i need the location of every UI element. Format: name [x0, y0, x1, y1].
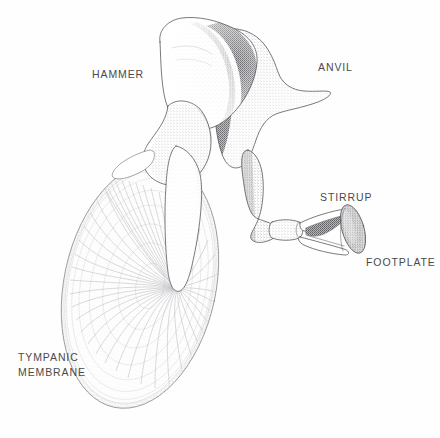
label-tympanic-membrane: TYMPANIC MEMBRANE: [18, 350, 86, 380]
label-anvil: ANVIL: [318, 60, 353, 74]
stapes-group: [266, 200, 372, 260]
label-hammer: HAMMER: [92, 67, 144, 81]
label-stirrup: STIRRUP: [320, 190, 372, 204]
tympanic-membrane-group: [40, 147, 241, 423]
label-footplate: FOOTPLATE: [366, 255, 436, 269]
membrane-stipple: [40, 147, 241, 423]
figure-canvas: HAMMER ANVIL STIRRUP FOOTPLATE TYMPANIC …: [0, 0, 440, 438]
